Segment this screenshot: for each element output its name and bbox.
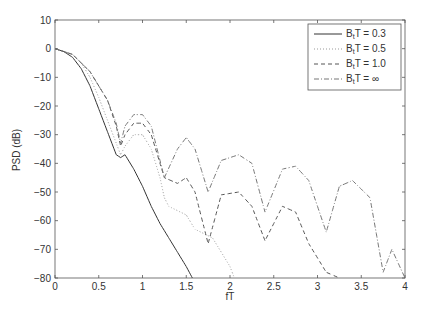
y-tick-label: −30 xyxy=(34,129,51,140)
y-axis-label: PSD (dB) xyxy=(11,129,22,171)
y-tick-label: −40 xyxy=(34,158,51,169)
y-tick-label: −50 xyxy=(34,187,51,198)
x-tick-label: 0.5 xyxy=(92,281,106,292)
x-tick-label: 1.5 xyxy=(179,281,193,292)
y-tick-label: −60 xyxy=(34,215,51,226)
x-tick-label: 3.5 xyxy=(354,281,368,292)
y-tick-label: −70 xyxy=(34,244,51,255)
x-tick-label: 4 xyxy=(402,281,408,292)
y-tick-label: −80 xyxy=(34,273,51,284)
legend-label: BtT = 1.0 xyxy=(346,58,386,70)
y-tick-label: −20 xyxy=(34,101,51,112)
legend-label: BtT = 0.5 xyxy=(346,43,386,55)
legend-label: BtT = ∞ xyxy=(346,73,379,85)
y-tick-label: −10 xyxy=(34,72,51,83)
x-tick-label: 2.5 xyxy=(267,281,281,292)
x-axis-label: fT xyxy=(226,291,235,302)
y-tick-label: 10 xyxy=(40,15,52,26)
psd-chart: 00.511.522.533.54100−10−20−30−40−50−60−7… xyxy=(0,0,423,320)
legend: BtT = 0.3BtT = 0.5BtT = 1.0BtT = ∞ xyxy=(308,24,401,90)
x-tick-label: 3 xyxy=(315,281,321,292)
y-tick-label: 0 xyxy=(45,43,51,54)
x-tick-label: 1 xyxy=(140,281,146,292)
x-tick-label: 0 xyxy=(52,281,58,292)
legend-label: BtT = 0.3 xyxy=(346,28,386,40)
